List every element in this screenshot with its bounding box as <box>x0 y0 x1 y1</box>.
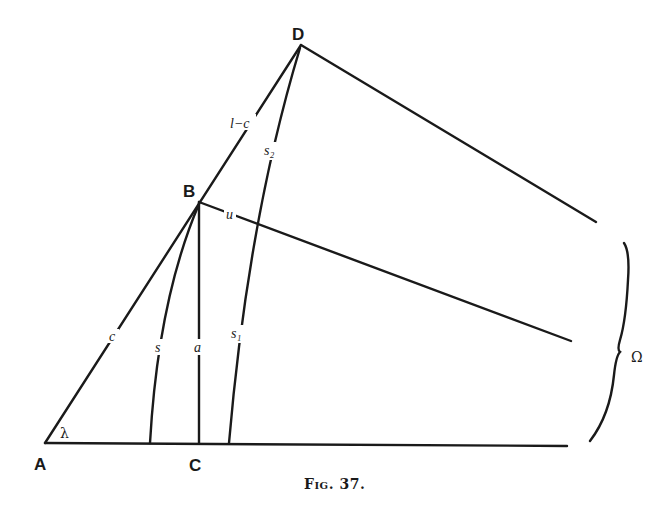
segment-label-c: c <box>109 329 116 344</box>
segment-label-s: s <box>155 340 161 355</box>
figure-caption: Fig. 37. <box>304 476 365 492</box>
brace <box>590 243 629 441</box>
brace-label-omega: Ω <box>631 349 643 365</box>
line-ad <box>45 45 301 443</box>
segment-label-s2: s₂ <box>264 143 274 158</box>
segment-label-l-minus-c: l−c <box>230 116 250 131</box>
segment-label-a: a <box>194 340 201 355</box>
baseline-ac <box>45 443 567 446</box>
line-d-ray <box>301 45 596 222</box>
point-label-b: B <box>183 182 195 201</box>
curve-s1-s2 <box>229 48 300 443</box>
point-label-a: A <box>34 455 46 474</box>
segment-label-s1: s₁ <box>231 326 241 341</box>
line-b-ray-u <box>199 202 571 341</box>
angle-label-lambda: λ <box>60 425 69 441</box>
geometry-diagram: D B A C l−c s₂ u c s a s₁ λ Ω Fig. 37. <box>0 0 670 512</box>
segment-label-u: u <box>226 207 233 222</box>
point-label-c: C <box>189 456 201 475</box>
point-label-d: D <box>292 25 304 44</box>
